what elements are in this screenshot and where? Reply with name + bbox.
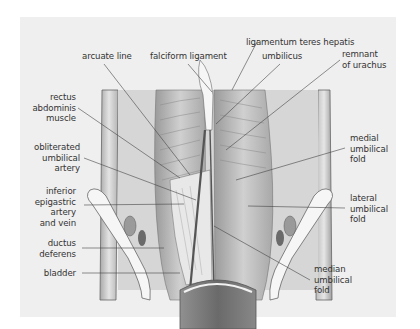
label-line: lateral xyxy=(350,193,388,204)
label-line: inferior xyxy=(24,186,76,197)
label-rectus-abdominis-muscle: rectus abdominis muscle xyxy=(28,92,76,124)
label-line: fold xyxy=(350,154,388,165)
label-line: medial xyxy=(350,133,388,144)
label-line: abdominis xyxy=(28,103,76,114)
label-ligamentum-teres-hepatis: ligamentum teres hepatis xyxy=(246,37,354,48)
label-line: umbilical xyxy=(350,144,388,155)
label-obliterated-umbilical-artery: obliterated umbilical artery xyxy=(24,142,80,174)
label-medial-umbilical-fold: medial umbilical fold xyxy=(350,133,388,165)
label-line: remnant xyxy=(342,49,386,60)
label-umbilicus: umbilicus xyxy=(262,51,302,62)
label-line: deferens xyxy=(24,249,76,260)
label-line: umbilical xyxy=(24,153,80,164)
label-line: fold xyxy=(350,214,388,225)
label-line: artery xyxy=(24,207,76,218)
label-median-umbilical-fold: median umbilical fold xyxy=(314,264,352,296)
label-arcuate-line: arcuate line xyxy=(82,51,132,62)
label-bladder: bladder xyxy=(24,268,76,279)
label-line: fold xyxy=(314,285,352,296)
label-inferior-epigastric-artery-and-vein: inferior epigastric artery and vein xyxy=(24,186,76,228)
label-line: median xyxy=(314,264,352,275)
label-line: umbilical xyxy=(314,275,352,286)
label-line: epigastric xyxy=(24,197,76,208)
label-lateral-umbilical-fold: lateral umbilical fold xyxy=(350,193,388,225)
label-falciform-ligament: falciform ligament xyxy=(150,51,227,62)
label-ductus-deferens: ductus deferens xyxy=(24,238,76,259)
label-line: rectus xyxy=(28,92,76,103)
label-line: artery xyxy=(24,163,80,174)
label-line: and vein xyxy=(24,218,76,229)
label-line: of urachus xyxy=(342,60,386,71)
label-line: ductus xyxy=(24,238,76,249)
label-line: obliterated xyxy=(24,142,80,153)
label-remnant-of-urachus: remnant of urachus xyxy=(342,49,386,70)
label-line: umbilical xyxy=(350,204,388,215)
label-line: muscle xyxy=(28,113,76,124)
